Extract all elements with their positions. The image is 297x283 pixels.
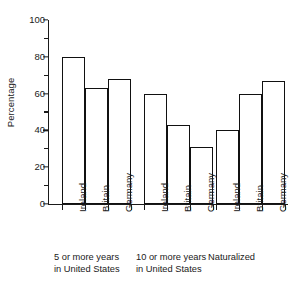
- category-label-text: Ireland: [232, 183, 242, 212]
- category-label-text: Ireland: [78, 183, 88, 212]
- y-tick-label: 0: [40, 199, 45, 209]
- group-caption: 10 or more yearsin United States: [136, 252, 206, 275]
- y-tick-label: 40: [34, 126, 45, 136]
- category-label-text: Germany: [124, 173, 134, 212]
- y-tick-label: 80: [34, 52, 45, 62]
- y-tick-label: 20: [34, 162, 45, 172]
- y-axis-line: [48, 20, 49, 204]
- bar: [62, 57, 85, 204]
- group-caption-line1: 10 or more years: [136, 252, 206, 264]
- group-caption-line2: in United States: [136, 264, 206, 276]
- x-tick-mark: [62, 204, 63, 210]
- y-tick-label: 60: [34, 89, 45, 99]
- group-caption-line1: 5 or more years: [54, 252, 120, 264]
- y-axis-label: Percentage: [0, 0, 22, 205]
- y-tick-minor: [44, 185, 48, 186]
- group-caption: 5 or more yearsin United States: [54, 252, 120, 275]
- category-label-text: Germany: [206, 173, 216, 212]
- category-label-text: Britain: [255, 185, 265, 212]
- y-tick-minor: [44, 38, 48, 39]
- y-tick-minor: [44, 148, 48, 149]
- x-tick-mark: [144, 204, 145, 210]
- plot-area: 020406080100 IrelandBritainGermanyIrelan…: [48, 20, 288, 204]
- y-tick-minor: [44, 75, 48, 76]
- y-tick-label: 100: [29, 15, 45, 25]
- bar-chart: Percentage 020406080100 IrelandBritainGe…: [0, 0, 297, 283]
- group-caption-line1: Naturalized: [208, 252, 255, 264]
- y-tick-minor: [44, 111, 48, 112]
- category-label-text: Ireland: [160, 183, 170, 212]
- category-label-text: Germany: [278, 173, 288, 212]
- category-label-text: Britain: [101, 185, 111, 212]
- x-tick-mark: [216, 204, 217, 210]
- category-label-text: Britain: [183, 185, 193, 212]
- group-caption-line2: in United States: [54, 264, 120, 276]
- group-caption: Naturalized: [208, 252, 255, 264]
- y-axis-label-text: Percentage: [6, 78, 17, 128]
